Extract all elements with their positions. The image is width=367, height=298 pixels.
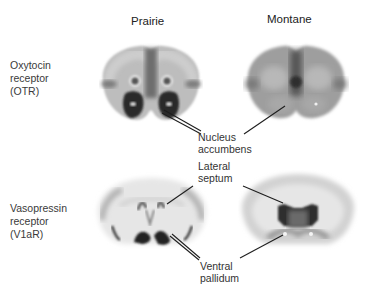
leader-ventral-pallidum-prairie bbox=[170, 236, 199, 260]
leader-ventral-pallidum-montane bbox=[240, 235, 283, 258]
callout-ventral-pallidum: Ventral pallidum bbox=[200, 260, 239, 284]
leader-lateral-septum-montane bbox=[243, 186, 283, 203]
leader-nucleus-accumbens-montane bbox=[244, 106, 285, 134]
leader-lateral-septum-prairie bbox=[167, 186, 193, 204]
leader-lines bbox=[0, 0, 367, 298]
leader-nucleus-accumbens-prairie bbox=[162, 113, 201, 134]
callout-nucleus-accumbens: Nucleus accumbens bbox=[198, 131, 252, 155]
callout-lateral-septum: Lateral septum bbox=[198, 160, 232, 184]
